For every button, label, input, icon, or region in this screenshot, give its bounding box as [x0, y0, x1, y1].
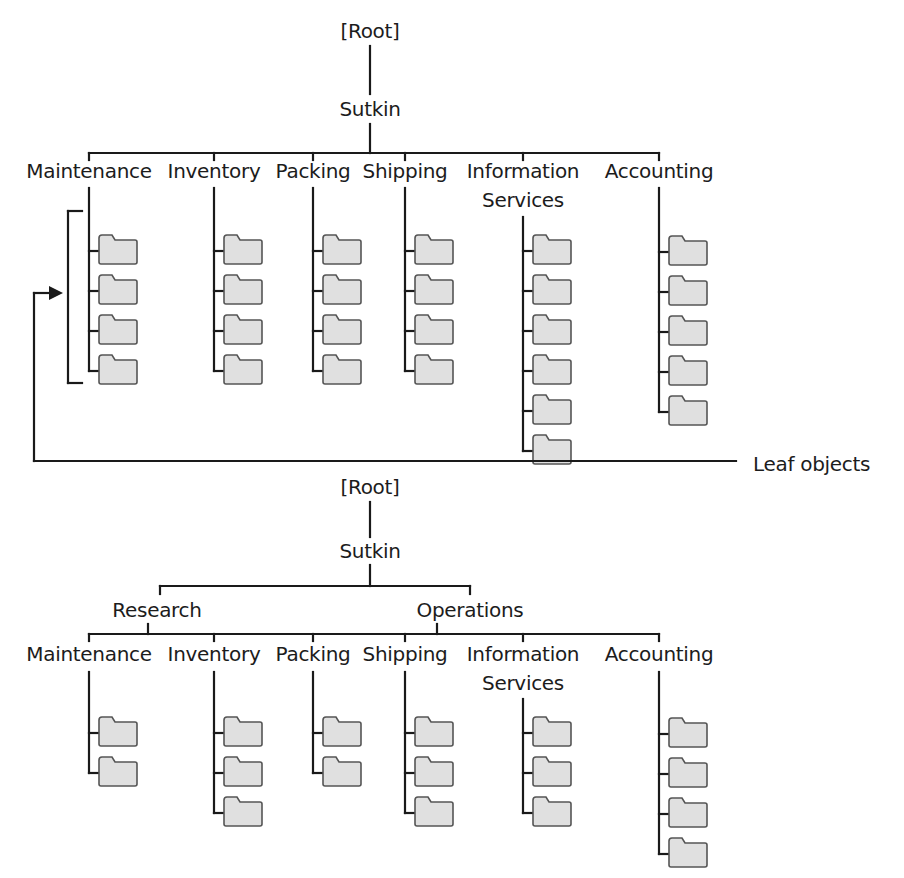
division-label-operations: Operations: [417, 599, 524, 621]
folder-icon: [415, 275, 453, 304]
folder-icon: [323, 235, 361, 264]
folder-icon: [669, 396, 707, 425]
department-label-accounting: Accounting: [605, 643, 714, 665]
folder-icon: [224, 717, 262, 746]
folder-icon: [99, 717, 137, 746]
folder-icon: [669, 356, 707, 385]
folder-icon: [323, 315, 361, 344]
department-label-inventory: Inventory: [168, 643, 261, 665]
folder-icon: [224, 757, 262, 786]
folder-icon: [533, 275, 571, 304]
leaf-objects-label: Leaf objects: [753, 453, 870, 475]
department-label-packing: Packing: [276, 160, 351, 182]
department-label-information-services: Information: [467, 160, 579, 182]
department-label-maintenance: Maintenance: [26, 160, 152, 182]
folder-icon: [415, 757, 453, 786]
department-label-accounting: Accounting: [605, 160, 714, 182]
folder-icon: [99, 235, 137, 264]
folder-icon: [415, 717, 453, 746]
folder-icon: [669, 316, 707, 345]
folder-icon: [224, 315, 262, 344]
folder-icon: [415, 315, 453, 344]
department-label-maintenance: Maintenance: [26, 643, 152, 665]
folder-icon: [533, 355, 571, 384]
org-node-label: Sutkin: [339, 98, 400, 120]
folder-icon: [669, 838, 707, 867]
department-label-shipping: Shipping: [363, 643, 448, 665]
folder-icon: [669, 758, 707, 787]
department-label-inventory: Inventory: [168, 160, 261, 182]
folder-icon: [99, 315, 137, 344]
department-label-packing: Packing: [276, 643, 351, 665]
folder-icon: [533, 757, 571, 786]
folder-icon: [224, 235, 262, 264]
arrow-right-icon: [49, 286, 63, 300]
folder-icon: [669, 798, 707, 827]
department-label-information-services: Information: [467, 643, 579, 665]
org-node-label: Sutkin: [339, 540, 400, 562]
folder-icon: [415, 235, 453, 264]
folder-icon: [224, 275, 262, 304]
folder-icon: [323, 757, 361, 786]
department-label-shipping: Shipping: [363, 160, 448, 182]
root-node-label: [Root]: [340, 20, 399, 42]
root-node-label: [Root]: [340, 476, 399, 498]
folder-icon: [533, 315, 571, 344]
folder-icon: [99, 275, 137, 304]
folder-icon: [99, 757, 137, 786]
folder-icon: [99, 355, 137, 384]
folder-icon: [669, 276, 707, 305]
department-label-information-services: Services: [482, 189, 564, 211]
folder-icon: [533, 235, 571, 264]
folder-icon: [415, 797, 453, 826]
folder-icon: [533, 395, 571, 424]
folder-icon: [323, 275, 361, 304]
folder-icon: [323, 717, 361, 746]
folder-icon: [224, 797, 262, 826]
division-label-research: Research: [112, 599, 201, 621]
org-tree-diagram: [0, 0, 904, 878]
folder-icon: [533, 797, 571, 826]
folder-icon: [533, 717, 571, 746]
folder-icon: [323, 355, 361, 384]
department-label-information-services: Services: [482, 672, 564, 694]
folder-icon: [669, 718, 707, 747]
folder-icon: [415, 355, 453, 384]
folder-icon: [669, 236, 707, 265]
folder-icon: [224, 355, 262, 384]
folder-icon: [533, 435, 571, 464]
